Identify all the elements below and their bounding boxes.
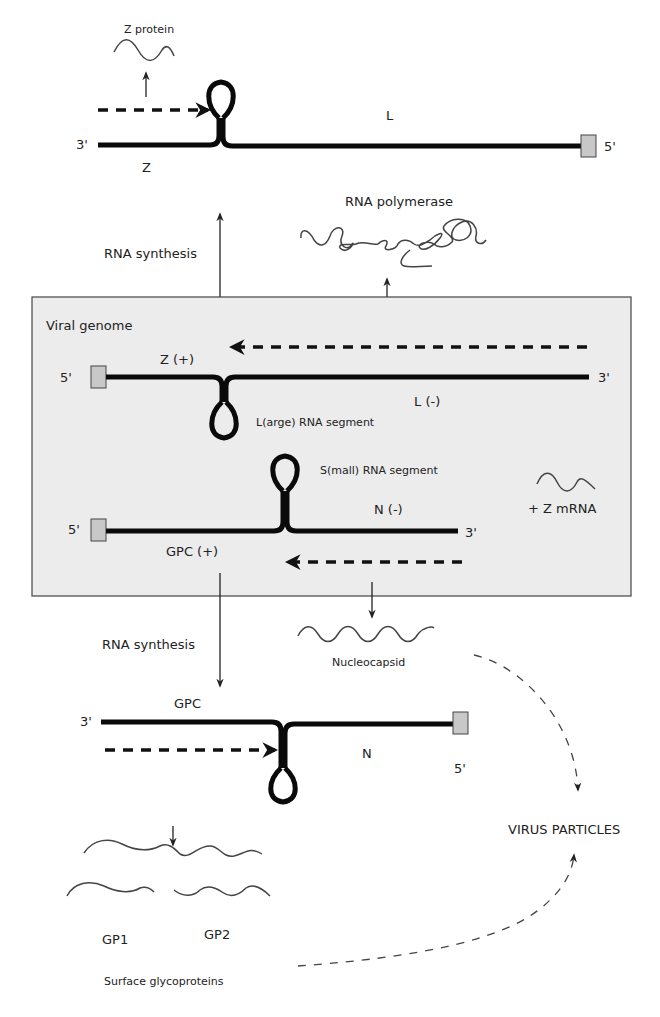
top-gene-l-label: L [386,108,394,123]
nucleocapsid-to-virus-curve-arrow [474,655,578,790]
top-segment: Z protein 3' 5' Z L [76,23,616,175]
top-strand-right [223,118,585,146]
top-strand-left [98,118,219,145]
gp2-wave-icon [174,886,270,896]
virus-particles-label: VIRUS PARTICLES [508,822,620,837]
nucleocapsid-label: Nucleocapsid [332,656,405,669]
gp1-wave-icon [67,883,154,896]
top-3prime-label: 3' [76,137,88,152]
gp1-label: GP1 [102,932,128,947]
bottom-strand-left [101,722,281,768]
gp2-label: GP2 [204,927,230,942]
glycoprotein-to-virus-curve-arrow [298,855,574,966]
bottom-5prime-label: 5' [454,761,466,776]
rna-synthesis-lower-label: RNA synthesis [102,637,195,652]
rna-synthesis-upper-label: RNA synthesis [104,246,197,261]
small-5prime-cap [91,519,106,541]
small-3prime-label: 3' [465,525,477,540]
top-5prime-label: 5' [604,139,616,154]
z-protein-wave-icon [114,40,174,61]
small-minus-gene-label: N (-) [374,502,403,517]
top-5prime-cap [581,135,596,157]
nucleocapsid-wave-icon [298,627,434,642]
surface-glycoproteins-caption: Surface glycoproteins [104,975,224,988]
viral-genome-title: Viral genome [46,318,132,333]
large-plus-gene-label: Z (+) [160,352,194,367]
bottom-gene-gpc-label: GPC [174,696,201,711]
top-gene-z-label: Z [142,160,151,175]
large-minus-gene-label: L (-) [414,394,440,409]
diagram-canvas: Z protein 3' 5' Z L RNA synthesis RNA po… [0,0,660,1017]
small-plus-gene-label: GPC (+) [166,544,218,559]
rna-polymerase-squiggle-icon [301,219,486,267]
glycoproteins: GP1 GP2 Surface glycoproteins [67,826,270,988]
bottom-3prime-label: 3' [80,714,92,729]
genome-box-background [32,297,631,596]
top-hairpin-loop [209,82,234,118]
large-5prime-label: 5' [60,370,72,385]
bottom-5prime-cap [453,712,468,734]
rna-polymerase-label: RNA polymerase [345,194,453,209]
z-mrna-label: + Z mRNA [528,501,596,516]
small-segment-name: S(mall) RNA segment [320,464,438,477]
bottom-hairpin-loop [271,768,296,802]
bottom-segment: GPC 3' 5' N [80,696,468,802]
large-3prime-label: 3' [598,370,610,385]
small-5prime-label: 5' [68,522,80,537]
large-5prime-cap [91,366,106,388]
virus-particles-assembly: VIRUS PARTICLES [298,655,620,966]
viral-genome-box: Viral genome Z (+) 5' 3' L (-) L(arge) R… [32,297,631,596]
bottom-gene-n-label: N [362,746,372,761]
large-segment-name: L(arge) RNA segment [256,416,375,429]
z-protein-label: Z protein [124,23,174,36]
